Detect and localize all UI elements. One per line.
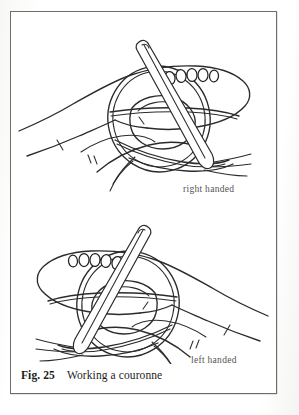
figure-frame: right handed left handed Fig. 25 Working… [10, 11, 277, 394]
left-handed-diagram [36, 225, 268, 364]
scanned-page: right handed left handed Fig. 25 Working… [0, 0, 299, 415]
figure-caption: Fig. 25 Working a couronne [21, 369, 162, 381]
right-handed-diagram [19, 40, 251, 191]
figure-caption-text: Working a couronne [67, 369, 162, 381]
couronne-line-drawing [11, 12, 276, 364]
illustration-area: right handed left handed [11, 12, 276, 364]
left-handed-label: left handed [191, 355, 237, 364]
figure-caption-number: Fig. 25 [21, 369, 55, 381]
right-handed-label: right handed [183, 184, 234, 194]
